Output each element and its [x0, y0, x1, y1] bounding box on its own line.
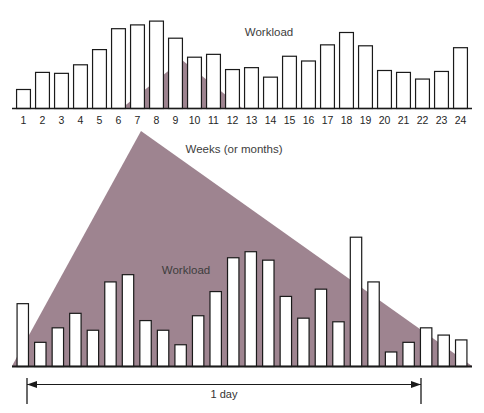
bar [122, 275, 133, 367]
bar [454, 48, 468, 109]
axis-tick-label: 9 [173, 114, 179, 126]
bar [403, 342, 414, 366]
bar [17, 90, 31, 109]
bar [52, 328, 63, 367]
bar [112, 29, 126, 109]
bar [140, 321, 151, 367]
axis-tick-label: 11 [208, 114, 219, 126]
bar [245, 68, 259, 109]
bar [87, 330, 98, 366]
workload-figure: 123456789101112131415161718192021222324 … [0, 0, 484, 413]
bar [74, 65, 88, 109]
axis-tick-label: 24 [455, 114, 467, 126]
bar [333, 322, 344, 367]
bar [157, 330, 168, 366]
axis-tick-label: 22 [417, 114, 429, 126]
bar [35, 342, 46, 366]
bar [416, 79, 430, 108]
axis-tick-label: 3 [59, 114, 65, 126]
bar [397, 72, 411, 108]
bar [188, 57, 202, 108]
axis-tick-label: 5 [97, 114, 103, 126]
bar [298, 318, 309, 366]
day-span-label: 1 day [211, 388, 238, 400]
axis-tick-label: 13 [246, 114, 258, 126]
arrow-head-right [411, 381, 421, 388]
bar [438, 335, 449, 366]
bar [105, 282, 116, 367]
arrow-head-left [27, 381, 37, 388]
bar [175, 345, 186, 367]
axis-tick-label: 19 [360, 114, 372, 126]
bar [302, 61, 316, 109]
axis-tick-label: 23 [436, 114, 448, 126]
bar [245, 252, 256, 367]
top-chart-bars [17, 21, 468, 108]
bar [321, 45, 335, 109]
axis-tick-label: 1 [21, 114, 27, 126]
bar [169, 38, 183, 108]
top-axis-tick-labels: 123456789101112131415161718192021222324 [21, 114, 467, 126]
top-workload-label: Workload [245, 26, 293, 38]
axis-tick-label: 12 [227, 114, 239, 126]
bar [263, 260, 274, 366]
bar [340, 33, 354, 109]
axis-tick-label: 7 [135, 114, 141, 126]
bar [378, 71, 392, 109]
bar [226, 70, 240, 109]
top-axis-label: Weeks (or months) [186, 143, 283, 155]
axis-tick-label: 20 [379, 114, 391, 126]
bar [456, 340, 467, 367]
bar [207, 54, 221, 108]
bar [55, 73, 69, 108]
bar [435, 71, 449, 108]
bar [228, 258, 239, 367]
axis-tick-label: 15 [284, 114, 296, 126]
axis-tick-label: 2 [40, 114, 46, 126]
figure-canvas: 123456789101112131415161718192021222324 … [0, 0, 484, 413]
bar [280, 296, 291, 366]
bar [93, 50, 107, 109]
bar [70, 313, 81, 366]
bar [350, 237, 361, 366]
bar [385, 352, 396, 367]
axis-tick-label: 17 [322, 114, 334, 126]
bar [315, 289, 326, 366]
axis-tick-label: 16 [303, 114, 315, 126]
bar [283, 56, 297, 108]
axis-tick-label: 14 [265, 114, 277, 126]
bar [420, 328, 431, 367]
axis-tick-label: 18 [341, 114, 353, 126]
axis-tick-label: 4 [78, 114, 84, 126]
bar [150, 21, 164, 108]
axis-tick-label: 10 [189, 114, 201, 126]
bar [210, 292, 221, 367]
bar [368, 282, 379, 367]
bar [192, 316, 203, 367]
bar [359, 46, 373, 109]
bar [36, 72, 50, 108]
bar [264, 77, 278, 108]
bar [17, 304, 28, 367]
axis-tick-label: 6 [116, 114, 122, 126]
bar [131, 25, 145, 109]
axis-tick-label: 8 [154, 114, 160, 126]
bottom-workload-label: Workload [162, 264, 210, 276]
axis-tick-label: 21 [398, 114, 410, 126]
